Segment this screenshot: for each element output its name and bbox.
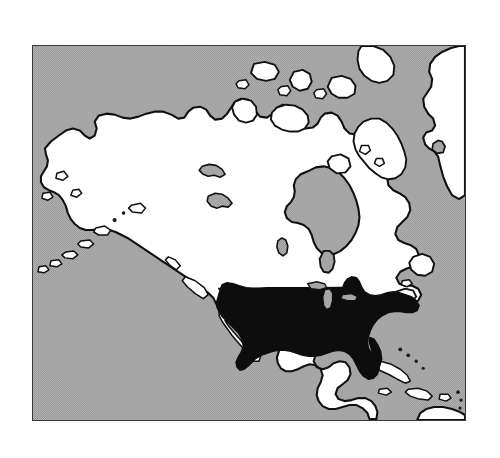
north-america-map[interactable] — [33, 46, 465, 420]
land-prince-of-wales-island — [290, 70, 312, 91]
land-lesser-antilles-islet-2 — [459, 398, 462, 401]
land-kodiak-island — [129, 203, 146, 213]
land-southampton-island — [328, 154, 351, 173]
map-frame-border — [32, 45, 466, 421]
land-bahamas-islet-1 — [398, 347, 402, 351]
map-figure — [0, 0, 500, 458]
land-lesser-antilles-islet-3 — [458, 406, 461, 409]
land-aleutian-islet-4 — [50, 260, 62, 267]
land-melville-island — [251, 62, 279, 81]
land-arctic-islet-a — [314, 89, 327, 99]
land-bahamas-islet-2 — [406, 353, 410, 357]
land-puerto-rico — [439, 394, 451, 401]
land-aleutian-dot-1 — [113, 218, 117, 222]
land-aleutian-islet-2 — [78, 240, 94, 248]
land-arctic-islet-c — [236, 80, 249, 89]
greenland-inlet-detail — [432, 140, 445, 153]
land-aleutian-dot-2 — [122, 211, 126, 215]
water-lake-erie-ontario — [341, 294, 358, 301]
land-bahamas-islet-3 — [415, 360, 418, 363]
land-devon-island — [328, 76, 356, 98]
land-jamaica — [378, 388, 391, 395]
water-james-bay — [320, 251, 335, 273]
land-arctic-islet-b — [278, 86, 291, 96]
land-bahamas-islet-4 — [422, 367, 425, 370]
water-lake-superior — [308, 282, 327, 290]
water-lake-michigan — [323, 289, 333, 310]
land-alaska-islet-b — [42, 192, 53, 200]
water-lake-winnipeg — [277, 238, 288, 256]
land-lesser-antilles-islet-1 — [456, 390, 460, 394]
